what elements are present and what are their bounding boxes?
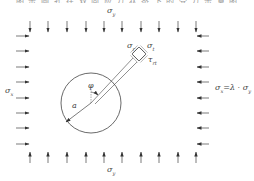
right-load-arrows: [197, 36, 209, 144]
angle-arc: [91, 92, 98, 95]
sigma-x-left-label: σx: [5, 87, 13, 97]
sigma-y-top-label: σy: [107, 7, 115, 17]
sigma-r-label: σr: [127, 42, 135, 52]
sigma-y-bottom-label: σy: [107, 166, 115, 176]
radial-line-1: [91, 58, 133, 103]
left-load-arrows: [16, 36, 29, 144]
sigma-t-label: σt: [147, 42, 154, 52]
sigma-x-right-label: σx=λ · σy: [215, 84, 251, 94]
top-load-arrows: [30, 21, 196, 32]
radius-a-label: a: [72, 102, 77, 110]
tau-rt-label: τrt: [148, 56, 157, 66]
angle-phi-label: φ: [88, 82, 94, 90]
radius-line: [66, 103, 91, 122]
bottom-load-arrows: [30, 152, 196, 163]
radial-line-2: [95, 62, 137, 104]
